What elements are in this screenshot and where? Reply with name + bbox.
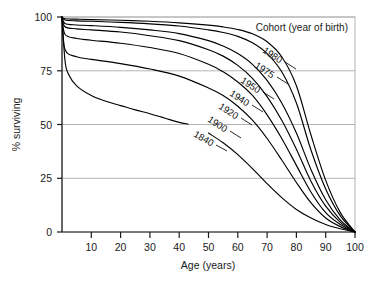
x-tick-label-50: 50 — [203, 241, 215, 253]
y-tick-label-50: 50 — [40, 119, 52, 131]
x-tick-label-80: 80 — [291, 241, 303, 253]
y-axis-ticks — [57, 17, 62, 232]
x-tick-label-90: 90 — [320, 241, 332, 253]
x-tick-label-70: 70 — [261, 241, 273, 253]
y-axis-title: % surviving — [10, 97, 22, 151]
x-tick-label-30: 30 — [144, 241, 156, 253]
survival-curves-chart: 100 75 50 25 0 % surviving 10 20 30 40 5… — [0, 0, 373, 284]
x-tick-label-40: 40 — [173, 241, 185, 253]
y-tick-label-100: 100 — [34, 11, 52, 23]
y-tick-label-0: 0 — [46, 226, 52, 238]
x-tick-label-20: 20 — [115, 241, 127, 253]
y-tick-label-25: 25 — [40, 172, 52, 184]
x-tick-label-100: 100 — [346, 241, 364, 253]
legend-title: Cohort (year of birth) — [256, 22, 348, 33]
x-axis-ticks — [91, 232, 355, 238]
x-axis-title: Age (years) — [181, 259, 235, 271]
chart-figure: 100 75 50 25 0 % surviving 10 20 30 40 5… — [0, 0, 373, 284]
x-tick-label-60: 60 — [232, 241, 244, 253]
x-tick-label-10: 10 — [85, 241, 97, 253]
y-tick-label-75: 75 — [40, 65, 52, 77]
